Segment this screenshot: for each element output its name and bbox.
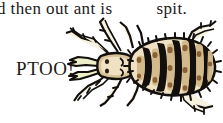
page-canvas: d then out ant isspit. PTOO! — [0, 0, 223, 123]
eye-right — [105, 68, 109, 73]
spitting-insect-illustration — [0, 0, 223, 123]
leg-mid-upper — [120, 22, 133, 48]
eye-left — [105, 59, 109, 64]
leg-thorax-upper — [137, 25, 143, 44]
leg-front-left — [66, 31, 110, 55]
